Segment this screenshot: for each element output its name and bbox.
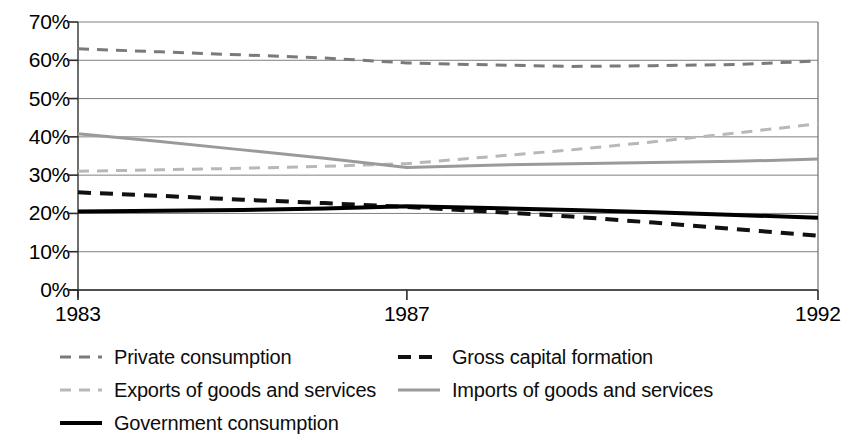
x-axis-tick-labels: 1983 1987 1992 [0,302,844,336]
series-line [78,49,818,67]
series-line [78,134,818,168]
x-tick-label: 1992 [795,302,841,326]
plot-area: 70% 60% 50% 40% 30% 20% 10% 0% 1983 1987… [0,0,844,300]
legend-label: Government consumption [114,411,339,435]
legend-item-imports-of-goods-and-services: Imports of goods and services [398,375,713,405]
legend-label: Exports of goods and services [114,378,376,402]
legend-item-private-consumption: Private consumption [60,342,291,372]
data-series [78,49,818,236]
chart-canvas [0,0,844,300]
legend-item-gross-capital-formation: Gross capital formation [398,342,653,372]
series-line [78,124,818,171]
chart-legend: Private consumption Gross capital format… [0,342,844,439]
x-tick-label: 1987 [384,302,430,326]
y-axis-ticks [67,22,78,290]
x-axis-ticks [78,290,818,300]
legend-label: Gross capital formation [452,345,653,369]
series-line [78,206,818,217]
line-chart-figure: 70% 60% 50% 40% 30% 20% 10% 0% 1983 1987… [0,0,844,439]
legend-item-government-consumption: Government consumption [60,408,339,438]
legend-label: Private consumption [114,345,291,369]
gridlines [78,22,818,290]
legend-swatch-dashed-icon [398,350,440,364]
legend-swatch-dashed-icon [60,350,102,364]
legend-label: Imports of goods and services [452,378,713,402]
legend-item-exports-of-goods-and-services: Exports of goods and services [60,375,376,405]
legend-swatch-dashed-icon [60,383,102,397]
legend-swatch-solid-icon [60,416,102,430]
legend-swatch-solid-icon [398,383,440,397]
x-tick-label: 1983 [55,302,101,326]
